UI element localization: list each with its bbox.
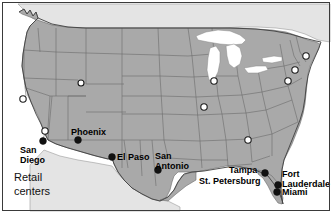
city-label-san-diego: San Diego [20,145,45,165]
city-label-st-petersburg: St. Petersburg [199,176,261,186]
marker-el-paso [109,154,116,161]
city-label-phoenix: Phoenix [71,127,106,137]
figure-caption: Retail centers [14,170,50,198]
open-marker-salt-lake-city [78,80,84,86]
open-marker-st-louis [201,104,207,110]
open-marker-chicago [211,78,217,84]
city-label-tampa: Tampa [229,165,257,175]
marker-fort-lauderdale [275,182,282,189]
open-marker-san-francisco [20,96,26,102]
city-label-san-antonio: San Antonio [155,151,189,171]
open-marker-boston [303,53,309,59]
open-marker-new-york [292,67,298,73]
open-marker-los-angeles [42,128,48,134]
open-marker-philadelphia [285,78,291,84]
marker-san-diego [40,138,47,145]
retail-centers-map-figure: San Diego Phoenix El Paso San Antonio Ta… [0,0,332,213]
city-label-miami: Miami [282,187,308,197]
marker-miami [274,189,281,196]
open-marker-atlanta [245,137,251,143]
marker-phoenix [75,137,82,144]
marker-tampa-st-petersburg [262,170,269,177]
city-label-fort-lauderdale: Fort Lauderdale [282,169,330,189]
city-label-el-paso: El Paso [117,152,150,162]
